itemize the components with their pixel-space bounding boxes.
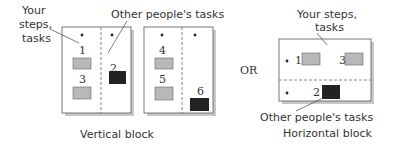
horizontal-block-caption: Horizontal block [283,127,372,140]
bullet-icon [286,60,289,63]
or-label: OR [240,64,258,77]
your-steps-label-line3: tasks [22,32,51,45]
your-steps-label-right-line2: tasks [315,21,344,34]
other-people-label-top: Other people's tasks [111,8,224,21]
your-task-3 [73,87,91,99]
time-blocking-diagram: 1 2 3 4 5 6 Your steps, tasks Other peop… [0,0,393,146]
bullet-icon [194,34,197,37]
task-number-6: 6 [197,85,204,98]
other-people-label-bottom: Other people's tasks [260,111,373,124]
vertical-block-caption: Vertical block [80,128,154,141]
your-steps-label-line2: steps, [19,18,52,31]
your-steps-label-line1: Your [21,4,46,17]
bullet-icon [81,34,84,37]
task-number-2: 2 [313,86,320,99]
other-task-2 [322,85,340,99]
horizontal-panel: 1 3 2 [279,39,374,104]
task-number-4: 4 [159,44,166,57]
your-task-3 [345,53,363,65]
bullet-icon [286,92,289,95]
other-task-2 [109,71,126,84]
task-number-3: 3 [79,73,86,86]
task-number-1: 1 [79,44,86,57]
your-task-5 [155,87,173,100]
your-task-1 [302,53,320,65]
task-number-5: 5 [159,73,166,86]
other-task-6 [190,98,209,111]
bullet-icon [111,34,114,37]
bullet-icon [161,34,164,37]
task-number-1: 1 [295,54,302,67]
your-task-1 [73,58,91,69]
your-task-4 [155,58,173,69]
vertical-panel-2: 4 5 6 [144,27,216,116]
your-steps-label-right-line1: Your steps, [296,8,357,21]
